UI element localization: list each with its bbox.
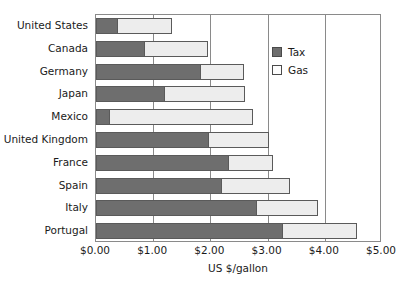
legend-label-tax: Tax — [288, 46, 305, 58]
category-label: Canada — [48, 37, 88, 60]
bar-segment-gas — [229, 156, 273, 170]
bar-segment-gas — [110, 110, 252, 124]
bar-segment-gas — [165, 87, 244, 101]
stacked-bar — [96, 86, 245, 102]
bar-segment-tax — [97, 133, 209, 147]
bar-segment-tax — [97, 110, 110, 124]
x-tick-label: $4.00 — [309, 244, 339, 256]
gas-swatch-icon — [272, 65, 282, 75]
bar-segment-gas — [145, 42, 206, 56]
gas-price-stacked-bar-chart: United StatesCanadaGermanyJapanMexicoUni… — [0, 0, 396, 285]
stacked-bar — [96, 132, 269, 148]
legend-label-gas: Gas — [288, 64, 308, 76]
bar-segment-gas — [283, 224, 355, 238]
x-tick-label: $3.00 — [252, 244, 282, 256]
bar-segment-tax — [97, 42, 145, 56]
x-tick-label: $1.00 — [137, 244, 167, 256]
category-label: Italy — [65, 196, 88, 219]
stacked-bar — [96, 41, 208, 57]
bar-segment-gas — [257, 201, 317, 215]
bar-segment-tax — [97, 19, 118, 33]
stacked-bar — [96, 109, 253, 125]
category-label: Portugal — [45, 219, 89, 242]
value-axis: $0.00$1.00$2.00$3.00$4.00$5.00 — [0, 244, 396, 260]
category-label: United States — [17, 14, 88, 37]
category-label: Germany — [40, 60, 88, 83]
bar-segment-tax — [97, 87, 165, 101]
x-tick-label: $5.00 — [366, 244, 396, 256]
category-axis: United StatesCanadaGermanyJapanMexicoUni… — [0, 14, 92, 242]
legend-item-gas: Gas — [272, 62, 330, 77]
stacked-bar — [96, 223, 357, 239]
stacked-bar — [96, 18, 172, 34]
x-axis-title: US $/gallon — [95, 262, 381, 274]
stacked-bar — [96, 200, 318, 216]
tax-swatch-icon — [272, 47, 282, 57]
bar-segment-gas — [209, 133, 268, 147]
bar-segment-tax — [97, 65, 201, 79]
category-label: Mexico — [51, 105, 88, 128]
bar-segment-gas — [118, 19, 171, 33]
bar-segment-tax — [97, 156, 229, 170]
stacked-bar — [96, 155, 273, 171]
stacked-bar — [96, 64, 244, 80]
category-label: Spain — [59, 174, 88, 197]
stacked-bar — [96, 178, 290, 194]
bar-segment-tax — [97, 201, 257, 215]
plot-area — [95, 14, 381, 242]
x-tick-label: $2.00 — [194, 244, 224, 256]
category-label: United Kingdom — [4, 128, 88, 151]
bar-segment-tax — [97, 179, 222, 193]
x-tick-label: $0.00 — [80, 244, 110, 256]
legend-item-tax: Tax — [272, 44, 330, 59]
category-label: Japan — [59, 82, 88, 105]
bar-segment-tax — [97, 224, 283, 238]
category-label: France — [53, 151, 88, 174]
bar-segment-gas — [201, 65, 243, 79]
bar-segment-gas — [222, 179, 289, 193]
chart-legend: Tax Gas — [272, 44, 330, 80]
